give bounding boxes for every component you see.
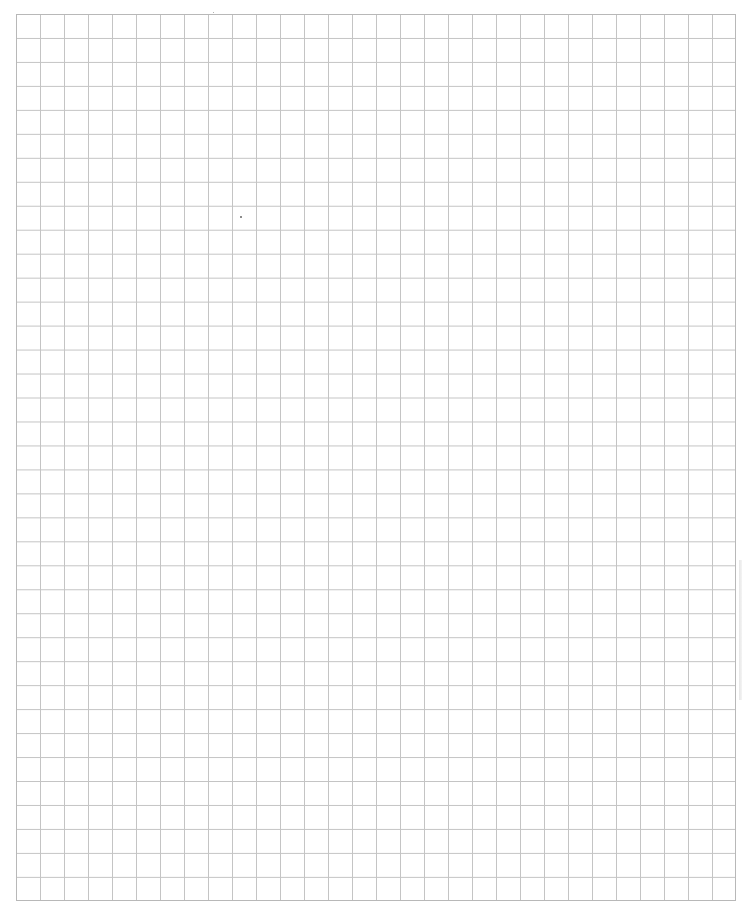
ink-speck xyxy=(213,12,214,13)
graph-paper-grid xyxy=(16,14,736,901)
scan-edge-shadow xyxy=(739,560,742,700)
ink-speck xyxy=(240,216,242,218)
